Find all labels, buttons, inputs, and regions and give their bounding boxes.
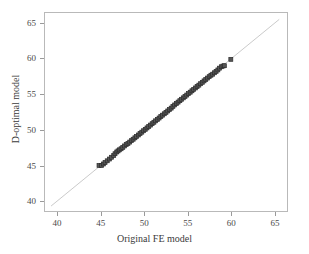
x-tick-label: 60	[219, 218, 243, 228]
x-tick-mark	[101, 212, 102, 216]
y-tick-label: 40	[16, 196, 36, 206]
x-tick-mark	[231, 212, 232, 216]
y-tick-label: 65	[16, 18, 36, 28]
x-tick-label: 65	[263, 218, 287, 228]
x-tick-mark	[275, 212, 276, 216]
y-tick-label: 45	[16, 161, 36, 171]
plot-canvas	[45, 13, 287, 211]
x-axis-title: Original FE model	[0, 233, 309, 244]
data-points-group	[97, 57, 233, 167]
y-tick-mark	[40, 201, 44, 202]
y-tick-mark	[40, 130, 44, 131]
x-tick-mark	[144, 212, 145, 216]
y-tick-label: 60	[16, 53, 36, 63]
x-tick-mark	[57, 212, 58, 216]
y-tick-mark	[40, 23, 44, 24]
y-tick-mark	[40, 58, 44, 59]
x-tick-label: 45	[89, 218, 113, 228]
y-axis-title: D-optimal model	[10, 75, 21, 144]
data-point	[229, 57, 233, 61]
plot-area	[44, 12, 288, 212]
x-tick-mark	[188, 212, 189, 216]
x-tick-label: 40	[45, 218, 69, 228]
data-point	[222, 64, 226, 68]
scatter-plot-figure: 404550556065 404550556065 Original FE mo…	[0, 0, 309, 254]
x-tick-label: 55	[176, 218, 200, 228]
y-tick-mark	[40, 166, 44, 167]
y-axis-title-wrapper: D-optimal model	[5, 9, 19, 209]
y-tick-mark	[40, 94, 44, 95]
x-tick-label: 50	[132, 218, 156, 228]
